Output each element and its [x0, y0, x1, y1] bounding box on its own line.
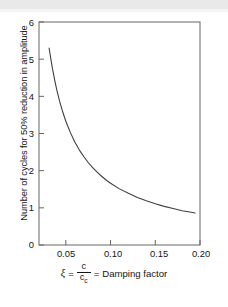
plot-frame: [39, 22, 200, 245]
xi-symbol: ξ: [61, 268, 66, 279]
caption-equals-1: =: [68, 269, 74, 279]
x-axis-caption: ξ = c cc = Damping factor: [0, 262, 228, 285]
caption-text: Damping factor: [102, 269, 167, 279]
caption-equals-2: =: [94, 269, 100, 279]
plot-svg: [0, 0, 228, 307]
data-curve: [49, 48, 195, 213]
figure-canvas: Number of cycles for 50% reduction in am…: [0, 0, 228, 307]
fraction-denominator: cc: [77, 273, 91, 285]
denominator-subscript: c: [84, 277, 87, 284]
caption-formula: ξ = c cc = Damping factor: [61, 262, 168, 285]
fraction-c-over-cc: c cc: [77, 262, 91, 285]
y-tick-marks: [39, 22, 44, 245]
fraction-numerator: c: [78, 262, 89, 272]
x-tick-marks: [66, 240, 200, 245]
